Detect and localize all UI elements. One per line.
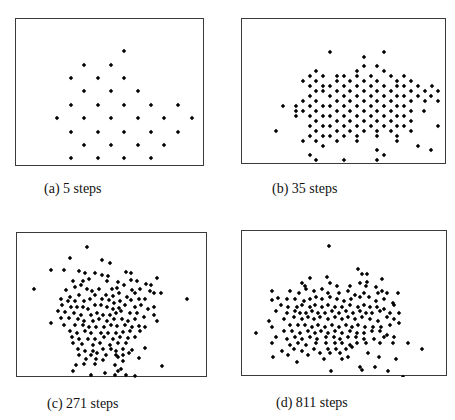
data-point-diamond — [295, 305, 299, 309]
scatter-plot-area — [242, 19, 447, 165]
data-point-diamond — [395, 84, 399, 88]
data-point-diamond — [389, 99, 393, 103]
data-point-diamond — [346, 315, 350, 319]
data-point-diamond — [375, 134, 379, 138]
data-point-diamond — [89, 373, 93, 377]
data-point-diamond — [326, 331, 330, 335]
data-point-diamond — [62, 268, 66, 272]
data-point-diamond — [75, 305, 79, 309]
data-point-diamond — [133, 317, 137, 321]
panel-caption-d: (d) 811 steps — [276, 395, 348, 411]
data-point-diamond — [389, 119, 393, 123]
data-point-diamond — [288, 323, 292, 327]
data-point-diamond — [116, 341, 120, 345]
data-point-diamond — [101, 358, 105, 362]
data-point-diamond — [416, 94, 420, 98]
data-point-diamond — [149, 130, 153, 134]
data-point-diamond — [55, 116, 59, 120]
data-point-diamond — [81, 323, 85, 327]
data-point-diamond — [108, 261, 112, 265]
data-point-diamond — [395, 134, 399, 138]
data-point-diamond — [326, 291, 330, 295]
data-point-diamond — [335, 89, 339, 93]
data-point-diamond — [429, 94, 433, 98]
data-point-diamond — [326, 317, 330, 321]
data-point-diamond — [59, 316, 63, 320]
data-point-diamond — [314, 129, 318, 133]
data-point-diamond — [312, 347, 316, 351]
data-point-diamond — [382, 124, 386, 128]
data-point-diamond — [137, 356, 141, 360]
data-point-diamond — [310, 325, 314, 329]
data-point-diamond — [270, 289, 274, 293]
data-point-diamond — [95, 351, 99, 355]
data-point-diamond — [394, 357, 398, 361]
data-point-diamond — [111, 337, 115, 341]
data-point-diamond — [93, 271, 97, 275]
data-point-diamond — [406, 341, 410, 345]
data-point-diamond — [137, 324, 141, 328]
data-point-diamond — [429, 148, 433, 152]
data-point-diamond — [366, 351, 370, 355]
data-point-diamond — [353, 293, 357, 297]
data-point-diamond — [351, 311, 355, 315]
data-point-diamond — [342, 84, 346, 88]
data-point-diamond — [274, 335, 278, 339]
data-point-diamond — [436, 89, 440, 93]
data-point-diamond — [301, 99, 305, 103]
data-point-diamond — [355, 114, 359, 118]
data-point-diamond — [130, 325, 134, 329]
data-point-diamond — [127, 351, 131, 355]
data-point-diamond — [116, 280, 120, 284]
data-point-diamond — [103, 371, 107, 375]
data-point-diamond — [344, 323, 348, 327]
data-point-diamond — [342, 114, 346, 118]
data-point-diamond — [292, 315, 296, 319]
data-point-diamond — [101, 347, 105, 351]
data-point-diamond — [314, 109, 318, 113]
data-point-diamond — [135, 279, 139, 283]
data-point-diamond — [385, 315, 389, 319]
data-point-diamond — [380, 277, 384, 281]
data-point-diamond — [72, 311, 76, 315]
data-point-diamond — [334, 347, 338, 351]
data-point-diamond — [126, 319, 130, 323]
data-point-diamond — [142, 315, 146, 319]
data-point-diamond — [300, 349, 304, 353]
data-point-diamond — [89, 313, 93, 317]
scatter-plot-area — [17, 233, 208, 378]
data-point-diamond — [322, 357, 326, 361]
data-point-diamond — [136, 89, 140, 93]
data-point-diamond — [333, 305, 337, 309]
data-point-diamond — [162, 116, 166, 120]
data-point-diamond — [122, 156, 126, 160]
data-point-diamond — [308, 153, 312, 157]
data-point-diamond — [389, 89, 393, 93]
data-point-diamond — [389, 74, 393, 78]
data-point-diamond — [328, 295, 332, 299]
data-point-diamond — [300, 337, 304, 341]
data-point-diamond — [326, 347, 330, 351]
data-point-diamond — [321, 104, 325, 108]
data-point-diamond — [121, 330, 125, 334]
data-point-diamond — [328, 94, 332, 98]
data-point-diamond — [109, 347, 113, 351]
data-point-diamond — [79, 283, 83, 287]
data-point-diamond — [369, 124, 373, 128]
data-point-diamond — [143, 325, 147, 329]
data-point-diamond — [114, 349, 118, 353]
data-point-diamond — [340, 357, 344, 361]
data-point-diamond — [176, 130, 180, 134]
data-point-diamond — [340, 305, 344, 309]
data-point-diamond — [69, 76, 73, 80]
data-point-diamond — [323, 311, 327, 315]
data-point-diamond — [321, 144, 325, 148]
data-point-diamond — [62, 323, 66, 327]
data-point-diamond — [94, 357, 98, 361]
data-point-diamond — [342, 94, 346, 98]
data-point-diamond — [371, 325, 375, 329]
data-point-diamond — [397, 311, 401, 315]
data-point-diamond — [318, 351, 322, 355]
data-point-diamond — [152, 291, 156, 295]
data-point-diamond — [113, 363, 117, 367]
